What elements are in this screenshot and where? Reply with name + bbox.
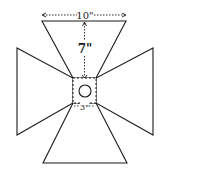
bottom-arm (43, 103, 127, 163)
width-label: 10" (76, 10, 93, 21)
left-arm (17, 48, 73, 135)
center-width-label: 3" (80, 103, 89, 112)
maltese-cross-diagram: 10" 7" 3" (0, 0, 217, 175)
height-label: 7" (78, 42, 93, 56)
